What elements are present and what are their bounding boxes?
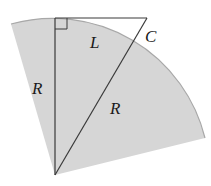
label-left-radius: R xyxy=(31,79,43,98)
label-extension: C xyxy=(145,27,157,46)
sector-diagram: R L C R xyxy=(0,0,211,186)
label-tangent: L xyxy=(89,33,99,52)
label-hypotenuse-radius: R xyxy=(109,99,121,118)
